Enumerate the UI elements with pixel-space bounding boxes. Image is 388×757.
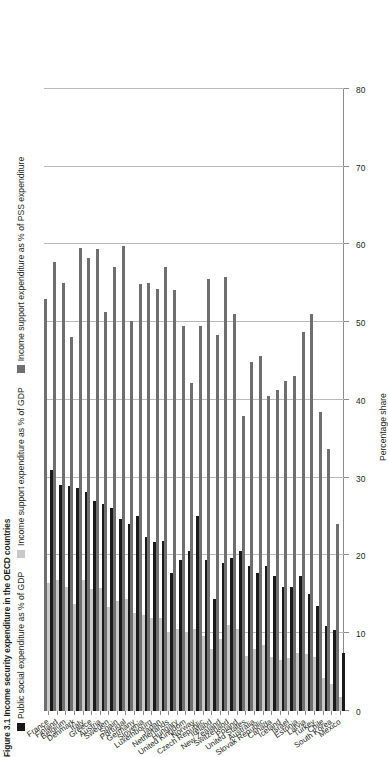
tick-10 <box>344 632 349 633</box>
category-tick <box>305 711 306 715</box>
category-tick <box>177 711 178 715</box>
category-tick <box>134 711 135 715</box>
bar-row <box>61 89 70 711</box>
category-tick <box>228 711 229 715</box>
bar-row <box>241 89 250 711</box>
bar-row <box>181 89 190 711</box>
bar-income-support-pss <box>207 279 210 711</box>
tick-label-30: 30 <box>356 474 365 484</box>
tick-label-40: 40 <box>356 396 365 406</box>
bar-row <box>113 89 122 711</box>
category-tick <box>323 711 324 715</box>
bar-row <box>164 89 173 711</box>
category-tick <box>74 711 75 715</box>
bar-row <box>318 89 327 711</box>
tick-label-70: 70 <box>356 163 365 173</box>
bar-row <box>173 89 182 711</box>
category-tick <box>194 711 195 715</box>
category-tick <box>340 711 341 715</box>
bar-row <box>335 89 344 711</box>
category-tick <box>117 711 118 715</box>
bar-income-support-pss <box>327 449 330 711</box>
tick-label-10: 10 <box>356 629 365 639</box>
bar-row <box>224 89 233 711</box>
category-tick <box>220 711 221 715</box>
bar-row <box>121 89 130 711</box>
tick-label-0: 0 <box>356 707 361 717</box>
bar-row <box>293 89 302 711</box>
bar-income-support-pss <box>336 524 339 711</box>
legend-item-income_support_gdp: Income support expenditure as % of GDP <box>16 387 26 558</box>
bar-income-support-pss <box>310 314 313 711</box>
category-tick <box>151 711 152 715</box>
category-tick <box>100 711 101 715</box>
legend-swatch-income_support_pss <box>17 365 25 373</box>
tick-40 <box>344 399 349 400</box>
plot-area: 01020304050607080 FranceFinlandBelgiumDe… <box>44 89 344 711</box>
legend-label-income_support_pss: Income support expenditure as % of PSS e… <box>16 157 26 361</box>
category-tick <box>331 711 332 715</box>
bar-row <box>284 89 293 711</box>
category-tick <box>297 711 298 715</box>
bar-row <box>87 89 96 711</box>
chart-legend: Public social expenditure as % of GDPInc… <box>16 157 26 731</box>
legend-item-public_social_gdp: Public social expenditure as % of GDP <box>16 572 26 731</box>
bar-row <box>95 89 104 711</box>
tick-20 <box>344 555 349 556</box>
category-tick <box>211 711 212 715</box>
bar-row <box>130 89 139 711</box>
category-tick <box>280 711 281 715</box>
bar-row <box>155 89 164 711</box>
category-tick <box>185 711 186 715</box>
bar-row <box>258 89 267 711</box>
bar-row <box>198 89 207 711</box>
tick-60 <box>344 244 349 245</box>
bar-row <box>215 89 224 711</box>
legend-swatch-income_support_gdp <box>17 550 25 558</box>
bar-row <box>70 89 79 711</box>
tick-80 <box>344 88 349 89</box>
bar-row <box>44 89 53 711</box>
category-tick <box>314 711 315 715</box>
legend-item-income_support_pss: Income support expenditure as % of PSS e… <box>16 157 26 373</box>
category-tick <box>254 711 255 715</box>
figure-title: Figure 3.1 Income security expenditure i… <box>2 519 12 757</box>
category-tick <box>48 711 49 715</box>
category-tick <box>263 711 264 715</box>
tick-label-50: 50 <box>356 318 365 328</box>
legend-label-income_support_gdp: Income support expenditure as % of GDP <box>16 387 26 546</box>
bar-row <box>327 89 336 711</box>
legend-swatch-public_social_gdp <box>17 723 25 731</box>
bar-row <box>310 89 319 711</box>
bar-income-support-pss <box>319 412 322 711</box>
bar-public-social-gdp <box>342 653 345 711</box>
category-tick <box>245 711 246 715</box>
legend-label-public_social_gdp: Public social expenditure as % of GDP <box>16 572 26 719</box>
category-tick <box>143 711 144 715</box>
bar-row <box>207 89 216 711</box>
category-tick <box>288 711 289 715</box>
category-tick <box>91 711 92 715</box>
bar-row <box>147 89 156 711</box>
category-tick <box>271 711 272 715</box>
bar-row <box>78 89 87 711</box>
bar-row <box>275 89 284 711</box>
bar-row <box>267 89 276 711</box>
category-tick <box>108 711 109 715</box>
tick-50 <box>344 321 349 322</box>
bar-row <box>301 89 310 711</box>
category-tick <box>83 711 84 715</box>
bar-row <box>233 89 242 711</box>
bar-row <box>190 89 199 711</box>
category-tick <box>160 711 161 715</box>
bar-row <box>250 89 259 711</box>
value-axis-title: Percentage share <box>378 393 388 461</box>
tick-label-20: 20 <box>356 552 365 562</box>
tick-label-60: 60 <box>356 241 365 251</box>
tick-30 <box>344 477 349 478</box>
category-tick <box>237 711 238 715</box>
category-tick <box>65 711 66 715</box>
category-tick <box>203 711 204 715</box>
